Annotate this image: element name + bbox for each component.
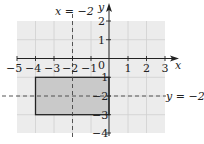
x-tick-labels: −5 −4 −3 −2 −1 0 1 2 3 — [6, 59, 169, 75]
x-tick-label: −2 — [62, 62, 78, 75]
coordinate-plane: −5 −4 −3 −2 −1 0 1 2 3 2 1 −1 −2 −3 −4 x… — [0, 0, 204, 144]
x-tick-label: −3 — [44, 62, 60, 75]
x-tick-label: −4 — [25, 62, 41, 75]
x-tick-label: −5 — [6, 62, 22, 75]
vline-equation-label: x = −2 — [55, 5, 94, 18]
y-tick-label: 2 — [98, 15, 105, 28]
y-tick-label: −4 — [92, 127, 108, 140]
hline-equation-label: y = −2 — [165, 90, 204, 103]
x-axis-label: x — [175, 59, 182, 72]
x-tick-label: 3 — [162, 62, 169, 75]
y-tick-label: −2 — [92, 90, 108, 103]
y-tick-label: −3 — [92, 109, 108, 122]
y-tick-label: −1 — [92, 71, 108, 84]
x-tick-label: 2 — [143, 62, 150, 75]
x-tick-label: 1 — [125, 62, 132, 75]
y-axis-label: y — [97, 1, 105, 14]
y-tick-label: 1 — [98, 34, 105, 47]
